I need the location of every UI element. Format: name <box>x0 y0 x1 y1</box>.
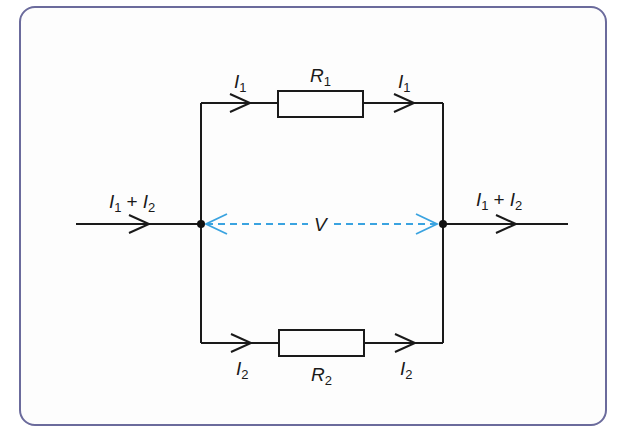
label-r2: R2 <box>311 364 332 388</box>
circuit-diagram: R1 R2 I1 I1 I2 I2 I1+I2 I1+I2 V <box>0 0 620 448</box>
label-input-current: I1+I2 <box>109 191 155 215</box>
label-voltage: V <box>314 214 329 235</box>
label-i1-left: I1 <box>234 71 247 95</box>
label-output-current: I1+I2 <box>476 189 522 213</box>
resistor-r1 <box>278 91 363 117</box>
label-r1: R1 <box>310 65 331 89</box>
resistor-r2 <box>279 330 364 356</box>
junction-node-left <box>197 220 205 228</box>
junction-node-right <box>439 220 447 228</box>
label-i2-left: I2 <box>236 358 249 382</box>
label-i2-right: I2 <box>400 358 413 382</box>
label-i1-right: I1 <box>398 71 411 95</box>
